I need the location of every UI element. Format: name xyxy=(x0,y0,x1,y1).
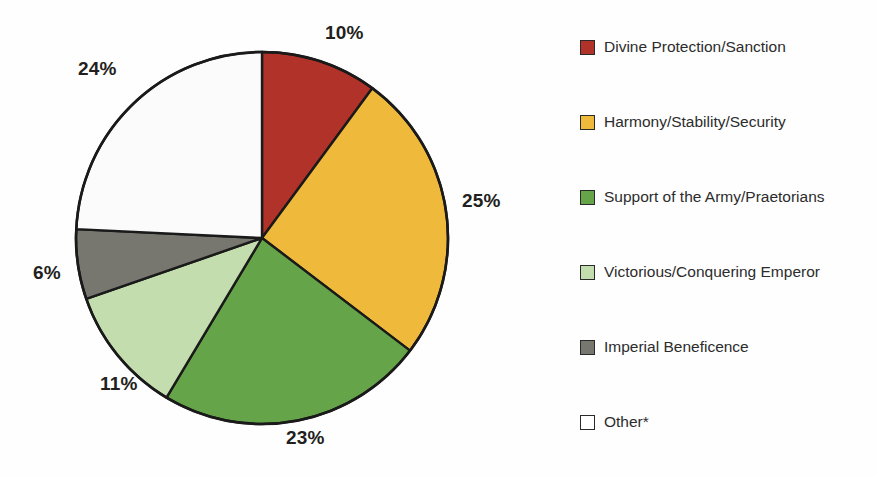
legend-item-label: Imperial Beneficence xyxy=(604,339,749,355)
legend-item-label: Other* xyxy=(604,414,649,430)
legend-swatch-icon xyxy=(580,265,595,280)
legend-item-harmony-stability-security: Harmony/Stability/Security xyxy=(580,111,786,133)
legend-swatch-icon xyxy=(580,340,595,355)
chart-legend: Divine Protection/Sanction Harmony/Stabi… xyxy=(580,0,877,477)
legend-item-label: Support of the Army/Praetorians xyxy=(604,189,825,205)
legend-item-label: Harmony/Stability/Security xyxy=(604,114,786,130)
legend-item-label: Divine Protection/Sanction xyxy=(604,39,786,55)
legend-item-support-of-the-army-praetorians: Support of the Army/Praetorians xyxy=(580,186,825,208)
pie-slice-group xyxy=(76,52,448,424)
legend-item-divine-protection-sanction: Divine Protection/Sanction xyxy=(580,36,786,58)
pie-value-label-5: 24% xyxy=(78,58,117,80)
pie-value-label-3: 11% xyxy=(100,373,138,395)
pie-chart-plot-area: 10% 25% 23% 11% 6% 24% xyxy=(0,0,560,477)
legend-swatch-icon xyxy=(580,115,595,130)
legend-swatch-icon xyxy=(580,190,595,205)
pie-value-label-2: 23% xyxy=(286,427,325,449)
pie-value-label-1: 25% xyxy=(462,190,501,212)
pie-value-label-0: 10% xyxy=(325,22,364,44)
legend-swatch-icon xyxy=(580,40,595,55)
legend-item-other: Other* xyxy=(580,411,649,433)
legend-item-label: Victorious/Conquering Emperor xyxy=(604,264,820,280)
pie-value-label-4: 6% xyxy=(33,262,61,284)
legend-item-imperial-beneficence: Imperial Beneficence xyxy=(580,336,749,358)
legend-swatch-icon xyxy=(580,415,595,430)
pie-chart-figure: 10% 25% 23% 11% 6% 24% Divine Protection… xyxy=(0,0,877,477)
legend-item-victorious-conquering-emperor: Victorious/Conquering Emperor xyxy=(580,261,820,283)
